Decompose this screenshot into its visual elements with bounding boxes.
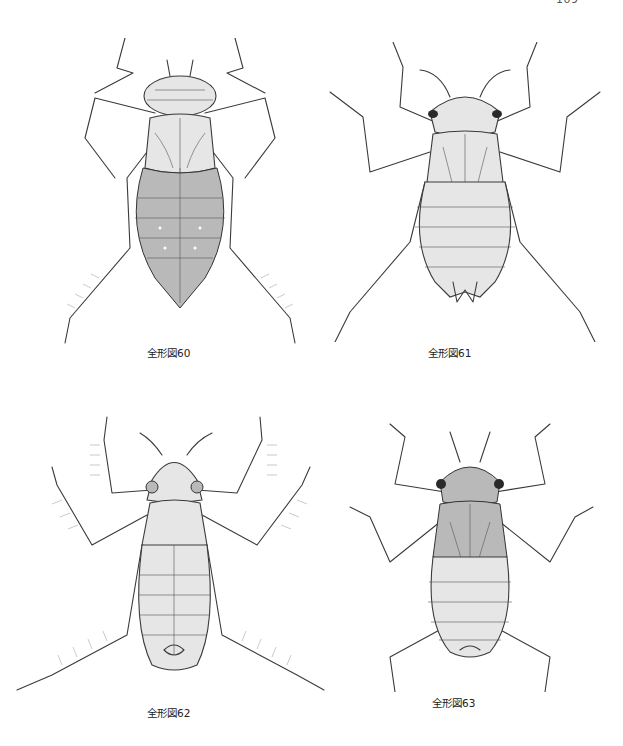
figure-63-illustration	[335, 412, 610, 692]
figure-60-caption: 全形図60	[147, 345, 190, 360]
figure-61-caption: 全形図61	[428, 345, 471, 360]
dragonfly-larva-60-drawing	[55, 38, 305, 348]
dragonfly-larva-63-drawing	[335, 412, 610, 692]
figure-62-illustration	[12, 405, 327, 695]
figure-61-illustration	[325, 42, 615, 342]
figure-63-caption: 全形図63	[432, 695, 475, 710]
figure-60-illustration	[55, 38, 305, 348]
dragonfly-larva-61-drawing	[325, 42, 615, 342]
figure-62-caption: 全形図62	[147, 705, 190, 720]
dragonfly-larva-62-drawing	[12, 405, 327, 695]
page-number: 109	[556, 0, 579, 6]
